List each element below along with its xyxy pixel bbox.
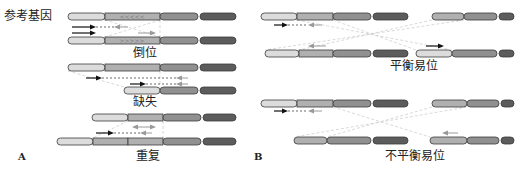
reference-gene-label: 参考基因 — [4, 10, 52, 22]
chromosome-segment — [200, 13, 236, 20]
chromosome-segment — [333, 50, 371, 57]
chromosome-dup — [57, 138, 236, 145]
chromosome-segment — [68, 13, 105, 20]
chromosome-segment — [160, 87, 198, 94]
orientation-marks: <<<<< — [119, 13, 144, 20]
chromosome-segment — [432, 100, 467, 107]
chromosome-segment — [265, 50, 299, 57]
chromosome-ut_r2 — [430, 137, 514, 144]
chromosome-dup_ref — [92, 114, 236, 121]
chromosome-segment — [163, 138, 201, 145]
chromosome-ut_r1 — [432, 100, 514, 107]
chromosome-segment — [499, 13, 514, 20]
chromosome-segment — [124, 87, 160, 94]
chromosome-segment — [128, 138, 163, 145]
chromosome-segment — [68, 64, 105, 71]
chromosome-segment — [203, 138, 236, 145]
chromosome-segment — [416, 50, 452, 57]
duplication-label: 重复 — [136, 150, 160, 162]
chromosome-segment — [93, 138, 128, 145]
chromosome-segment — [160, 37, 198, 44]
chromosome-bt_l2 — [265, 50, 408, 57]
chromosome-segment — [200, 64, 236, 71]
orientation-marks: >>>>> — [119, 37, 144, 44]
chromosomes: <<<<<>>>>> — [57, 13, 514, 145]
chromosome-segment — [203, 114, 236, 121]
chromosome-segment — [467, 137, 499, 144]
chromosome-segment — [294, 137, 327, 144]
chromosome-ut_l2 — [294, 137, 408, 144]
chromosome-segment — [105, 64, 160, 71]
chromosome-segment — [57, 138, 93, 145]
chromosome-segment — [333, 100, 371, 107]
chromosome-segment — [200, 37, 236, 44]
chromosome-segment — [261, 100, 297, 107]
chromosome-segment — [327, 137, 371, 144]
chromosome-del_ref — [68, 64, 236, 71]
balanced-translocation-label: 平衡易位 — [390, 60, 438, 72]
chromosome-bt_r2 — [416, 50, 514, 57]
chromosome-segment — [373, 13, 408, 20]
chromosome-ref: <<<<< — [68, 13, 236, 20]
chromosome-segment — [68, 37, 105, 44]
chromosome-segment — [160, 13, 198, 20]
chromosome-segment — [373, 100, 408, 107]
chromosome-ut_l1 — [261, 100, 408, 107]
chromosome-segment — [464, 13, 497, 20]
panel-b-letter: B — [254, 152, 262, 162]
chromosome-segment — [163, 114, 201, 121]
panel-a-letter: A — [18, 152, 26, 162]
chromosome-segment — [501, 137, 514, 144]
chromosome-del — [124, 87, 236, 94]
chromosome-segment — [467, 100, 499, 107]
chromosome-bt_r1 — [432, 13, 514, 20]
chromosome-bt_l1 — [261, 13, 408, 20]
chromosome-segment — [299, 50, 333, 57]
chromosome-segment — [432, 13, 464, 20]
chromosome-segment — [430, 137, 467, 144]
deletion-label: 缺失 — [133, 96, 157, 108]
chromosome-segment — [297, 100, 333, 107]
chromosome-segment — [452, 50, 497, 57]
chromosome-segment — [128, 114, 163, 121]
chromosome-segment — [92, 114, 128, 121]
chromosome-segment — [160, 64, 198, 71]
chromosome-segment — [501, 100, 514, 107]
chromosome-segment — [200, 87, 236, 94]
chromosome-segment — [373, 137, 408, 144]
chromosome-segment — [261, 13, 297, 20]
unbalanced-translocation-label: 不平衡易位 — [385, 150, 445, 162]
chromosome-inv: >>>>> — [68, 37, 236, 44]
chromosome-segment — [333, 13, 371, 20]
chromosome-segment — [297, 13, 333, 20]
inversion-label: 倒位 — [133, 47, 157, 59]
chromosome-segment — [373, 50, 408, 57]
structural-variant-diagram: <<<<<>>>>> — [0, 0, 528, 172]
chromosome-segment — [499, 50, 514, 57]
